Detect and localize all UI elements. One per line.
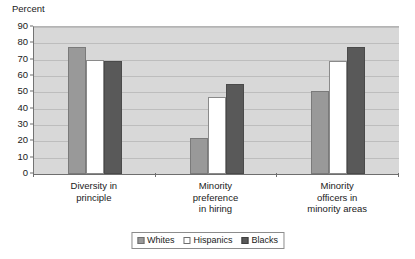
y-tick-mark-20 [30, 140, 33, 141]
gridline-0 [34, 174, 399, 175]
bar-hispanics-0 [86, 60, 104, 174]
y-tick-label-40: 40 [17, 103, 28, 113]
legend-swatch-icon-whites [137, 237, 144, 244]
y-tick-mark-30 [30, 124, 33, 125]
legend: WhitesHispanicsBlacks [131, 232, 284, 249]
bar-whites-0 [68, 47, 86, 174]
y-tick-mark-60 [30, 75, 33, 76]
bar-blacks-2 [347, 47, 365, 174]
y-tick-label-50: 50 [17, 86, 28, 96]
bar-whites-2 [311, 91, 329, 174]
y-tick-label-70: 70 [17, 54, 28, 64]
x-category-label-2: Minority officers in minority areas [276, 180, 398, 215]
y-tick-mark-80 [30, 42, 33, 43]
y-tick-label-0: 0 [23, 168, 28, 178]
legend-label: Blacks [252, 235, 279, 245]
y-tick-label-10: 10 [17, 152, 28, 162]
y-axis-tick-labels: 9080706050403020100 [0, 0, 33, 259]
x-axis-category-labels: Diversity in principleMinority preferenc… [33, 180, 399, 225]
x-axis-tick-edge-3 [398, 173, 399, 177]
legend-label: Hispanics [193, 235, 232, 245]
legend-entry-blacks[interactable]: Blacks [242, 235, 279, 245]
bar-hispanics-2 [329, 61, 347, 174]
legend-swatch-icon-hispanics [183, 237, 190, 244]
plot-area [33, 26, 399, 174]
x-category-label-1: Minority preference in hiring [155, 180, 277, 215]
y-tick-mark-90 [30, 26, 33, 27]
bar-chart: Percent 9080706050403020100 Diversity in… [0, 0, 415, 259]
bar-hispanics-1 [208, 97, 226, 174]
x-axis-tick-1 [155, 173, 156, 177]
y-tick-mark-10 [30, 156, 33, 157]
y-tick-label-90: 90 [17, 21, 28, 31]
x-axis-tick-2 [276, 173, 277, 177]
y-tick-label-20: 20 [17, 135, 28, 145]
legend-label: Whites [147, 235, 175, 245]
bar-blacks-0 [104, 61, 122, 174]
legend-swatch-icon-blacks [242, 237, 249, 244]
bar-blacks-1 [226, 84, 244, 174]
bars-layer [34, 27, 399, 174]
y-tick-label-30: 30 [17, 119, 28, 129]
y-tick-label-80: 80 [17, 37, 28, 47]
x-category-label-0: Diversity in principle [33, 180, 155, 203]
y-tick-mark-70 [30, 58, 33, 59]
bar-whites-1 [190, 138, 208, 174]
y-tick-mark-50 [30, 91, 33, 92]
y-tick-label-60: 60 [17, 70, 28, 80]
y-tick-mark-40 [30, 107, 33, 108]
x-axis-tick-edge-0 [33, 173, 34, 177]
legend-entry-whites[interactable]: Whites [137, 235, 175, 245]
legend-entry-hispanics[interactable]: Hispanics [183, 235, 232, 245]
